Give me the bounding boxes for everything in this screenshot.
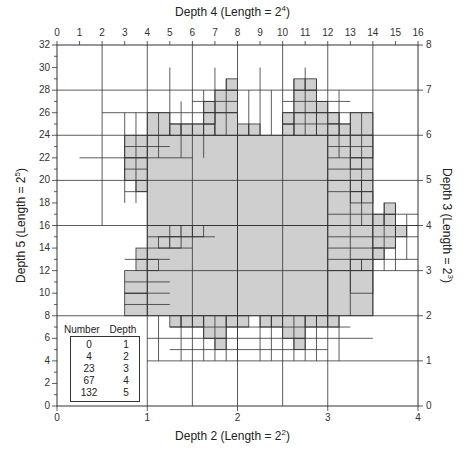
left-tick-label: 32 xyxy=(20,39,50,50)
right-tick-label: 8 xyxy=(426,39,432,50)
legend-row: 233 xyxy=(77,363,133,375)
shaded-cell xyxy=(294,338,305,349)
left-tick-label: 20 xyxy=(20,174,50,185)
shaded-cell xyxy=(294,79,305,90)
shaded-cell xyxy=(170,124,181,135)
legend: Number Depth 01 42 233 674 1325 xyxy=(70,324,140,402)
shaded-cell xyxy=(192,226,203,237)
left-tick-label: 18 xyxy=(20,197,50,208)
shaded-cell xyxy=(350,271,373,294)
shaded-cell xyxy=(283,124,294,135)
shaded-cell xyxy=(136,180,147,191)
shaded-cell xyxy=(350,192,361,203)
legend-row: 01 xyxy=(77,339,133,351)
left-tick-label: 10 xyxy=(20,287,50,298)
shaded-cell xyxy=(283,113,294,124)
shaded-cell xyxy=(328,113,339,124)
left-tick-label: 0 xyxy=(20,400,50,411)
left-tick-label: 22 xyxy=(20,152,50,163)
shaded-cell xyxy=(170,226,181,237)
right-tick-label: 6 xyxy=(426,129,432,140)
shaded-cell xyxy=(271,316,282,327)
shaded-cell xyxy=(305,316,316,327)
shaded-cell xyxy=(170,237,181,248)
shaded-cell xyxy=(350,259,361,270)
left-tick-label: 26 xyxy=(20,107,50,118)
shaded-cell xyxy=(226,316,237,327)
right-tick-label: 2 xyxy=(426,310,432,321)
shaded-cell xyxy=(395,226,406,237)
bottom-tick-label: 4 xyxy=(403,412,433,423)
right-tick-label: 5 xyxy=(426,174,432,185)
shaded-cell xyxy=(238,124,249,135)
bottom-tick-label: 2 xyxy=(223,412,253,423)
left-tick-label: 14 xyxy=(20,242,50,253)
legend-table: 01 42 233 674 1325 xyxy=(70,336,140,402)
right-tick-label: 0 xyxy=(426,400,432,411)
shaded-cell xyxy=(373,214,384,225)
legend-row: 674 xyxy=(77,375,133,387)
left-tick-label: 2 xyxy=(20,377,50,388)
legend-header-depth: Depth xyxy=(110,324,137,335)
legend-header-number: Number xyxy=(64,324,100,335)
bottom-tick-label: 0 xyxy=(42,412,72,423)
shaded-cell xyxy=(350,158,361,169)
shaded-cell xyxy=(181,124,192,135)
shaded-cell xyxy=(147,259,158,270)
left-tick-label: 28 xyxy=(20,84,50,95)
right-tick-label: 3 xyxy=(426,265,432,276)
left-tick-label: 16 xyxy=(20,220,50,231)
shaded-cell xyxy=(136,248,147,259)
right-tick-label: 1 xyxy=(426,355,432,366)
shaded-cell xyxy=(384,214,395,225)
shaded-cell xyxy=(204,113,215,124)
shaded-cell xyxy=(350,180,361,191)
shaded-cell xyxy=(226,79,237,90)
shaded-cell xyxy=(204,124,215,135)
right-tick-label: 4 xyxy=(426,220,432,231)
shaded-cell xyxy=(215,338,226,349)
top-tick-label: 16 xyxy=(403,27,433,38)
shaded-cell xyxy=(328,124,339,135)
left-tick-label: 12 xyxy=(20,265,50,276)
shaded-cell xyxy=(136,259,147,270)
bottom-tick-label: 1 xyxy=(132,412,162,423)
shaded-cell xyxy=(181,226,192,237)
legend-row: 42 xyxy=(77,351,133,363)
left-tick-label: 8 xyxy=(20,310,50,321)
left-tick-label: 24 xyxy=(20,129,50,140)
shaded-cell xyxy=(362,192,373,203)
shaded-cell xyxy=(204,101,215,112)
shaded-cell xyxy=(181,316,192,327)
shaded-cell xyxy=(170,316,181,327)
shaded-cell xyxy=(316,101,327,112)
shaded-cell xyxy=(249,124,260,135)
shaded-cell xyxy=(192,124,203,135)
shaded-cell xyxy=(260,316,271,327)
legend-row: 1325 xyxy=(77,387,133,399)
shaded-cell xyxy=(159,237,170,248)
right-tick-label: 7 xyxy=(426,84,432,95)
legend-header: Number Depth xyxy=(64,324,140,335)
shaded-cell xyxy=(373,248,384,259)
shaded-cell xyxy=(339,124,350,135)
left-tick-label: 6 xyxy=(20,332,50,343)
shaded-cell xyxy=(316,316,327,327)
shaded-cell xyxy=(305,79,316,90)
shaded-cell xyxy=(362,259,373,270)
left-tick-label: 4 xyxy=(20,355,50,366)
left-tick-label: 30 xyxy=(20,62,50,73)
shaded-cell xyxy=(192,316,203,327)
shaded-cell xyxy=(238,316,249,327)
shaded-cell xyxy=(328,316,339,327)
shaded-cell xyxy=(384,203,395,214)
bottom-tick-label: 3 xyxy=(313,412,343,423)
